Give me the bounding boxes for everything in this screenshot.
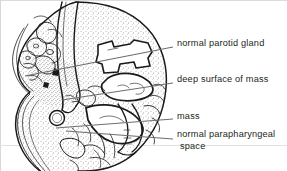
- label-parapharyngeal-line-1: normal parapharyngeal: [177, 129, 275, 139]
- carotid-vessel-circle: [50, 111, 65, 126]
- label-normal-parotid-gland: normal parotid gland: [177, 38, 264, 50]
- label-parapharyngeal-line-2: space: [180, 141, 275, 153]
- label-mass: mass: [177, 111, 200, 123]
- label-normal-parapharyngeal-space: normal parapharyngealspace: [177, 129, 275, 152]
- label-deep-surface-of-mass: deep surface of mass: [177, 74, 269, 86]
- figure-root: normal parotid gland deep surface of mas…: [0, 0, 287, 171]
